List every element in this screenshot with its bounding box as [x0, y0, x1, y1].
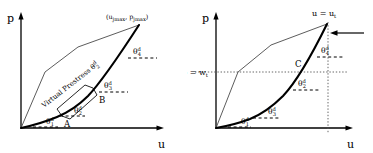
right-panel-svg: p u u = ut p = wt C θd1 θd3 θd2 [187, 0, 373, 153]
peak-base-1: (u [106, 13, 113, 21]
x-axis-label-right: u [347, 138, 354, 151]
angle-label-theta-2-right: θd2 [298, 78, 307, 89]
angle-label-theta-4-right: θd4 [321, 45, 330, 56]
angle-label-theta-2-left: θd2 [74, 105, 83, 116]
angle-label-theta-1-right: θd1 [241, 116, 250, 127]
diagram-panel-left: p u (ujmax, pjmax) A B θd1 θd2 θd3 [0, 0, 186, 153]
angle-label-theta-3-left: θd3 [104, 80, 113, 91]
point-label-a-left: A [63, 119, 71, 129]
peak-sub-2: jmax [132, 16, 146, 23]
x-axis-right [216, 125, 353, 130]
angle-label-theta-1-left: θd1 [46, 116, 55, 127]
horizontal-guide-label-right: p = wt [187, 68, 209, 78]
svg-text:(ujmax, pjmax): (ujmax, pjmax) [106, 13, 148, 23]
peak-mid: , p [125, 13, 133, 21]
angle-label-theta-3-right: θd3 [268, 106, 277, 117]
virtual-prestress-label: Virtual Prestressθd2 [38, 59, 101, 112]
y-axis-label-right: p [202, 12, 209, 25]
vertical-guide-label-right: u = ut [312, 9, 337, 19]
point-label-c-right: C [295, 59, 302, 69]
angle-label-theta-4-left: θd4 [133, 46, 142, 57]
x-axis-left [21, 125, 164, 130]
x-axis-label-left: u [158, 138, 165, 151]
y-axis-right [213, 12, 218, 128]
target-arrow-icon [330, 30, 364, 35]
peak-coordinate-label-left: (ujmax, pjmax) [106, 13, 148, 23]
diagram-panel-right: p u u = ut p = wt C θd1 θd3 θd2 [187, 0, 373, 153]
peak-sub-1: jmax [112, 16, 126, 23]
point-label-b-left: B [99, 95, 105, 105]
y-axis-label-left: p [7, 12, 14, 25]
figure-container: p u (ujmax, pjmax) A B θd1 θd2 θd3 [0, 0, 373, 153]
left-panel-svg: p u (ujmax, pjmax) A B θd1 θd2 θd3 [0, 0, 186, 153]
y-axis-left [18, 12, 23, 128]
peak-end: ) [146, 13, 149, 21]
